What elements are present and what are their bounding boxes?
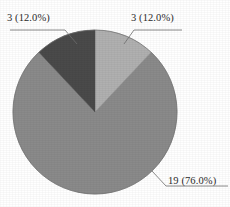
pie-chart: 3 (12.0%) 3 (12.0%) 19 (76.0%)	[0, 0, 230, 207]
pie-label-major-slice: 19 (76.0%)	[168, 176, 216, 187]
pie-label-light-slice: 3 (12.0%)	[131, 13, 174, 24]
pie-label-dark-slice: 3 (12.0%)	[7, 13, 50, 24]
